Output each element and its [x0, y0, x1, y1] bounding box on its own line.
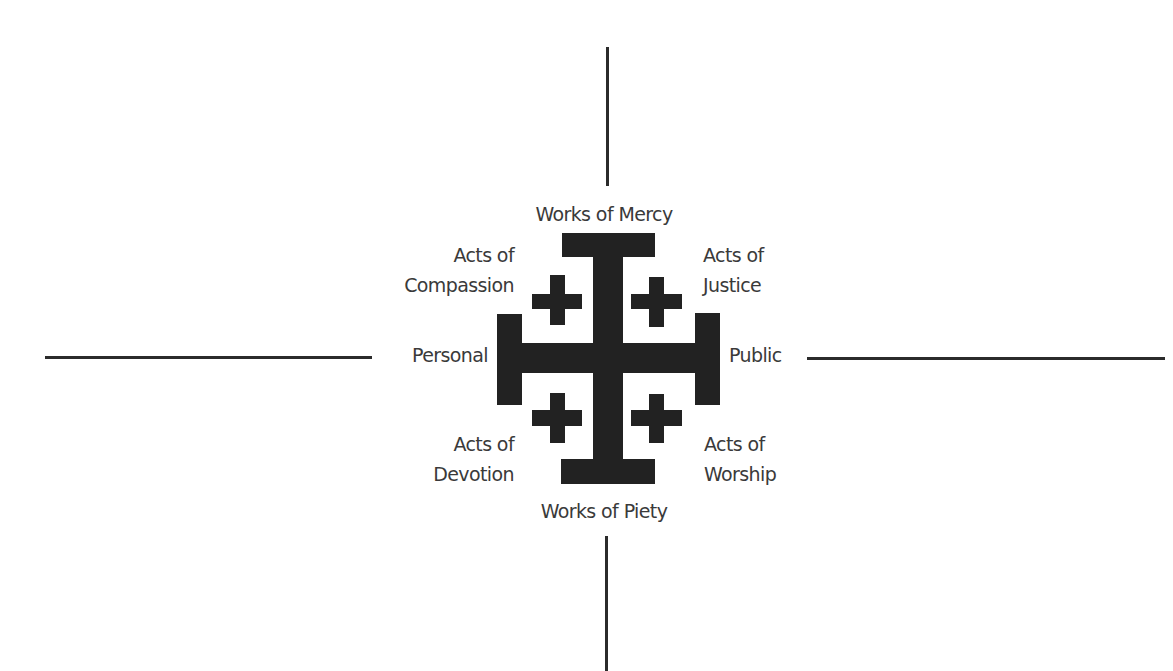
axis-line-left — [45, 356, 372, 359]
axis-line-right — [807, 357, 1165, 360]
label-line: Acts of — [354, 240, 514, 270]
cross-top-bar — [562, 233, 655, 257]
cross-left-bar — [497, 314, 522, 405]
label-acts-of-devotion: Acts of Devotion — [354, 429, 514, 489]
label-works-of-mercy: Works of Mercy — [504, 199, 704, 229]
label-line: Justice — [703, 270, 823, 300]
label-line: Compassion — [354, 270, 514, 300]
label-line: Acts of — [354, 429, 514, 459]
label-public: Public — [729, 340, 809, 370]
cross-bottom-bar — [561, 459, 655, 484]
label-line: Acts of — [703, 240, 823, 270]
axis-line-bottom — [605, 536, 608, 671]
axis-line-top — [606, 47, 609, 186]
label-acts-of-justice: Acts of Justice — [703, 240, 823, 300]
cross-horizontal-arm — [497, 343, 720, 373]
label-personal: Personal — [370, 340, 488, 370]
label-acts-of-worship: Acts of Worship — [704, 429, 824, 489]
label-line: Acts of — [704, 429, 824, 459]
label-works-of-piety: Works of Piety — [504, 496, 704, 526]
label-line: Devotion — [354, 459, 514, 489]
label-line: Worship — [704, 459, 824, 489]
label-acts-of-compassion: Acts of Compassion — [354, 240, 514, 300]
cross-right-bar — [695, 313, 720, 405]
